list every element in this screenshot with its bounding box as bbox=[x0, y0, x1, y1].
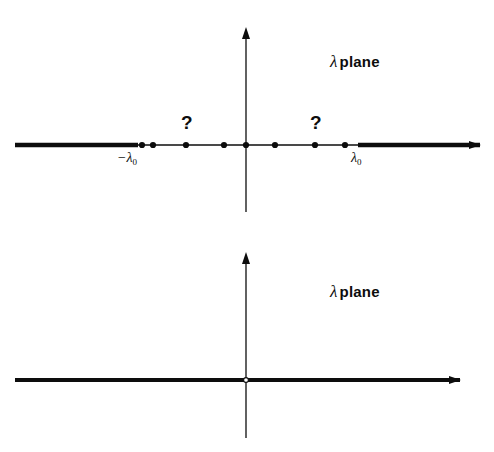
left-question-mark-annotation: ? bbox=[181, 113, 193, 132]
right-question-mark-annotation: ? bbox=[310, 113, 322, 132]
lower-plane-label: λplane bbox=[330, 282, 380, 302]
upper-imaginary-axis-arrowhead bbox=[242, 27, 250, 39]
neg-lambda-zero-base: −λ bbox=[117, 150, 133, 165]
pos-lambda-zero-label: λ0 bbox=[351, 150, 362, 167]
upper-pole-dot bbox=[139, 142, 145, 148]
neg-lambda-zero-label: −λ0 bbox=[117, 150, 137, 167]
upper-pole-dot bbox=[342, 142, 348, 148]
upper-plane-label-text: plane bbox=[340, 53, 380, 70]
upper-pole-dot bbox=[221, 142, 227, 148]
upper-panel bbox=[15, 27, 481, 212]
upper-pole-dot bbox=[312, 142, 318, 148]
lower-origin-dot bbox=[244, 378, 249, 383]
figure-canvas bbox=[0, 0, 494, 452]
upper-plane-label: λplane bbox=[330, 52, 380, 72]
upper-pole-dot bbox=[183, 142, 189, 148]
upper-pole-dot bbox=[150, 142, 156, 148]
upper-origin-dot bbox=[243, 142, 249, 148]
lower-panel bbox=[15, 252, 461, 438]
lower-plane-label-text: plane bbox=[340, 283, 380, 300]
pos-lambda-zero-subscript: 0 bbox=[357, 157, 362, 167]
lower-plane-lambda-symbol: λ bbox=[330, 282, 340, 301]
neg-lambda-zero-subscript: 0 bbox=[133, 157, 138, 167]
lambda-plane-figure: λplane −λ0 λ0 ? ? λplane bbox=[0, 0, 494, 452]
lower-imaginary-axis-arrowhead bbox=[242, 252, 250, 264]
upper-pole-dot bbox=[272, 142, 278, 148]
upper-plane-lambda-symbol: λ bbox=[330, 52, 340, 71]
